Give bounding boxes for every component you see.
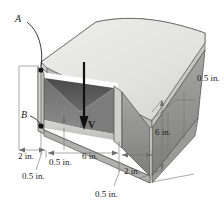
diagram-canvas (0, 0, 224, 215)
dim-left-flange-width: 2 in. (18, 152, 34, 161)
beam-shear-diagram: A B V 0.5 in. 2 in. 0.5 in. 6 in. 2 in. … (0, 0, 224, 215)
point-b-marker (38, 123, 43, 128)
dim-top-plate-thickness: 0.5 in. (197, 74, 220, 83)
dim-inner-width: 6 in. (82, 152, 98, 161)
point-b-label: B (21, 110, 27, 120)
left-web (38, 67, 44, 130)
dim-beam-depth: 6 in. (155, 128, 171, 137)
dim-left-web-thickness: 0.5 in. (49, 158, 72, 167)
point-a-marker (38, 67, 43, 72)
dim-right-web-thickness: 2 in. (124, 167, 140, 176)
dim-left-web-thickness-2: 0.5 in. (22, 172, 45, 181)
dim-bottom-plate-thickness: 0.5 in. (95, 190, 118, 199)
shear-force-label: V (88, 120, 95, 130)
point-a-label: A (15, 14, 21, 24)
point-a-leader (27, 22, 42, 67)
